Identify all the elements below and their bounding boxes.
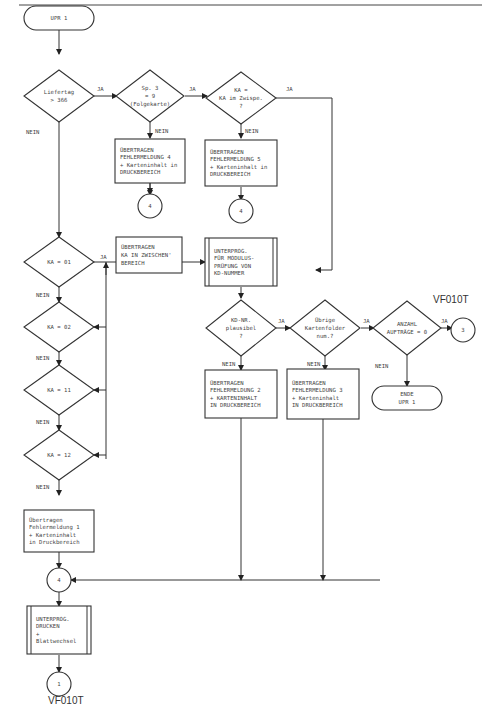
- node-text: ÜBERTRAGEN: [292, 379, 326, 386]
- node-text: KA = 01: [47, 259, 71, 265]
- node-text: + Karteninhalt in: [120, 162, 177, 168]
- node-text: ANZAHL: [397, 321, 418, 327]
- node-text: UPR 1: [399, 399, 416, 405]
- label-ja: JA: [278, 318, 285, 324]
- p-fehler2-process: ÜBERTRAGENFEHLERMELDUNG 2+ KARTENINHALTI…: [205, 370, 277, 418]
- node-text: KD-NR.: [231, 317, 251, 323]
- label-nein: NEIN: [245, 128, 258, 134]
- p-fehler1-process: ÜbertragenFehlermeldung 1+ Karteninhalti…: [24, 510, 94, 552]
- node-text: + Karteninhalt: [292, 395, 339, 401]
- d-ka11-decision: KA = 11: [24, 365, 94, 415]
- label-ja: JA: [100, 254, 107, 260]
- node-text: KD-NUMMER: [214, 270, 245, 276]
- d-liefertag-decision: Liefertag> 366: [24, 70, 94, 122]
- p-fehler4-process: ÜBERTRAGENFEHLERMELDUNG 4+ Karteninhalt …: [115, 139, 185, 183]
- node-text: num.?: [317, 333, 334, 339]
- node-text: = 9: [145, 93, 155, 99]
- node-text: ENDE: [400, 391, 414, 397]
- label-ja: JA: [97, 86, 104, 92]
- p-fehler3-process: ÜBERTRAGENFEHLERMELDUNG 3+ KarteninhaltI…: [287, 369, 359, 419]
- page-ref-bottom: VF010T: [48, 695, 84, 706]
- node-text: Sp. 3: [142, 85, 159, 92]
- label-nein: NEIN: [36, 419, 49, 425]
- node-text: Kartenfolder: [305, 325, 346, 331]
- end-terminal: ENDEUPR 1: [372, 386, 442, 410]
- flowchart: JA NEIN JA NEIN JA NEIN JA NEIN NEIN NEI…: [0, 0, 494, 721]
- node-text: PRÜFUNG VON: [214, 262, 251, 269]
- node-text: DRUCKEN: [36, 623, 60, 629]
- label-nein: NEIN: [36, 292, 49, 298]
- node-text: KA = 11: [47, 387, 71, 393]
- node-text: DRUCKBEREICH: [210, 171, 250, 177]
- node-text: FEHLERMELDUNG 4: [120, 154, 171, 160]
- node-text: FÜR MODULUS-: [214, 254, 254, 261]
- node-text: ?: [239, 333, 242, 339]
- d-ka-zwispe-decision: KA =KA im Zwispe.?: [206, 72, 276, 124]
- label-nein: NEIN: [222, 361, 235, 367]
- label-ja: JA: [363, 318, 370, 324]
- s-modulus-subroutine: UNTERPROG.FÜR MODULUS-PRÜFUNG VONKD-NUMM…: [205, 238, 277, 286]
- node-text: FEHLERMELDUNG 2: [210, 387, 261, 393]
- connections: [59, 30, 452, 672]
- label-ja: JA: [286, 86, 293, 92]
- label-ja: JA: [441, 318, 448, 324]
- node-text: UNTERPROG.: [36, 616, 70, 622]
- node-text: UNTERPROG.: [214, 248, 248, 254]
- node-text: IN DRUCKBEREICH: [210, 402, 261, 408]
- node-text: Blattwechsel: [36, 638, 76, 644]
- label-ja: JA: [189, 86, 196, 92]
- start-terminal: UPR 1: [24, 6, 94, 30]
- node-text: Fehlermeldung 1: [29, 524, 80, 531]
- label-nein: NEIN: [26, 129, 39, 135]
- node-text: in Druckbereich: [29, 539, 80, 545]
- node-text: Übrige: [315, 316, 336, 324]
- node-text: 3: [461, 327, 464, 333]
- node-text: + KARTENINHALT: [210, 395, 258, 401]
- node-text: FEHLERMELDUNG 3: [292, 387, 343, 393]
- node-text: Übertragen: [29, 516, 63, 524]
- c4-b-connector: 4: [229, 199, 253, 223]
- node-text: + Karteninhalt: [29, 532, 76, 538]
- node-text: FEHLERMELDUNG 5: [210, 156, 261, 162]
- d-kartenfolder-decision: ÜbrigeKartenfoldernum.?: [290, 300, 360, 356]
- d-sp3-decision: Sp. 3= 9(Folgekarte): [116, 70, 184, 122]
- label-nein: NEIN: [36, 355, 49, 361]
- page-ref-top: VF010T: [433, 294, 469, 305]
- node-text: ?: [239, 103, 242, 109]
- node-text: DRUCKBEREICH: [120, 169, 160, 175]
- s-drucken-subroutine: UNTERPROG.DRUCKEN+Blattwechsel: [27, 606, 91, 654]
- c4-main-connector: 4: [47, 568, 71, 592]
- d-anzahl-decision: ANZAHLAUFTRÄGE = 0: [373, 301, 441, 355]
- node-text: UPR 1: [51, 15, 68, 21]
- d-ka12-decision: KA = 12: [24, 430, 94, 480]
- label-nein: NEIN: [155, 128, 168, 134]
- label-nein: NEIN: [307, 361, 320, 367]
- node-text: AUFTRÄGE = 0: [387, 328, 427, 335]
- d-kdnr-decision: KD-NR.plausibel?: [206, 300, 276, 356]
- label-nein: NEIN: [36, 484, 49, 490]
- d-ka02-decision: KA = 02: [24, 302, 94, 352]
- node-text: IN DRUCKBEREICH: [292, 402, 343, 408]
- node-text: KA IN ZWISCHEN': [121, 252, 172, 258]
- node-text: BEREICH: [121, 260, 145, 266]
- node-text: + Karteninhalt in: [210, 164, 267, 170]
- c1-connector: 1: [47, 672, 71, 696]
- node-text: (Folgekarte): [130, 101, 170, 108]
- node-text: > 366: [51, 97, 68, 103]
- c3-connector: 3: [451, 318, 475, 342]
- label-nein: NEIN: [375, 363, 388, 369]
- node-text: KA = 12: [47, 452, 71, 458]
- node-text: ÜBERTRAGEN: [210, 148, 244, 155]
- node-text: 1: [57, 681, 60, 687]
- p-zwischen-process: ÜBERTRAGENKA IN ZWISCHEN'BEREICH: [116, 237, 182, 273]
- node-text: ÜBERTRAGEN: [120, 146, 154, 153]
- d-ka01-decision: KA = 01: [24, 237, 94, 287]
- c4-a-connector: 4: [138, 194, 162, 218]
- node-text: Liefertag: [44, 89, 74, 96]
- node-text: ÜBERTRAGEN: [121, 243, 155, 250]
- p-fehler5-process: ÜBERTRAGENFEHLERMELDUNG 5+ Karteninhalt …: [205, 140, 277, 186]
- node-text: KA = 02: [47, 324, 71, 330]
- node-text: ÜBERTRAGEN: [210, 379, 244, 386]
- node-text: KA =: [234, 87, 248, 93]
- node-text: plausibel: [226, 325, 256, 332]
